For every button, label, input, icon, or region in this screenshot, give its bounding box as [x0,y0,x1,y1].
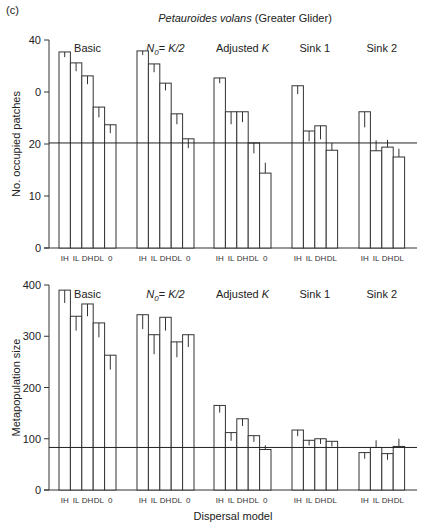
x-axis-title: Dispersal model [194,510,273,522]
y-tick-label: 40 [29,34,41,46]
bar [248,436,259,490]
category-label: DL [394,496,405,505]
category-label: IL [151,496,158,505]
bar [260,173,271,248]
category-label: IH [216,496,224,505]
bar [393,446,404,490]
group-title: N0= K/2 [146,42,184,57]
group-title: N0= K/2 [146,288,184,303]
bar [370,447,381,490]
category-label: 0 [108,496,113,505]
bar [93,107,104,248]
bar [148,64,159,248]
category-label: 0 [186,254,191,263]
category-label: IL [73,496,80,505]
category-label: DL [94,254,105,263]
group-title: Basic [74,288,101,300]
category-label: DL [249,496,260,505]
bar [183,139,194,248]
y-axis-title: No. occupied patches [10,91,22,197]
bar [303,131,314,248]
category-label: DH [82,496,94,505]
bar [148,335,159,490]
bar [393,157,404,248]
category-label: DL [94,496,105,505]
bar [382,147,393,248]
category-label: 0 [186,496,191,505]
category-label: IL [306,254,313,263]
bar-group: Sink 1IHILDHDL [292,288,338,505]
category-label: DL [172,254,183,263]
bar [237,112,248,248]
bar [59,290,70,490]
category-label: DH [382,496,394,505]
figure: (c) Petauroides volans (Greater Glider)0… [0,0,428,528]
bar-group: N0= K/2IHILDHDL0 [137,42,194,263]
group-title: Adjusted K [216,42,270,54]
y-tick-label: 200 [23,382,41,394]
bar [171,342,182,490]
y-tick-label: 0 [35,86,41,98]
bar-group: Sink 2IHILDHDL [359,42,405,263]
category-label: IH [139,254,147,263]
category-label: 0 [263,496,268,505]
y-tick-label: 0 [35,242,41,254]
category-label: DL [327,254,338,263]
category-label: DL [394,254,405,263]
category-label: IL [73,254,80,263]
bar [326,150,337,248]
category-label: IH [361,496,369,505]
category-label: DL [327,496,338,505]
y-tick-label: 300 [23,330,41,342]
y-tick-label: 400 [23,279,41,291]
chart-panel-1: 01020040No. occupied patchesBasicIHILDHD… [10,34,417,263]
bar [160,83,171,248]
category-label: IL [228,254,235,263]
bar [93,323,104,490]
category-label: DL [172,496,183,505]
bar [82,76,93,248]
bar-group: Adjusted KIHILDHDL0 [214,42,271,263]
bar [315,126,326,248]
y-tick-label: 20 [29,138,41,150]
bar [160,317,171,490]
bar [260,450,271,490]
bar [225,433,236,490]
bar [183,335,194,490]
y-tick-label: 10 [29,190,41,202]
category-label: IH [61,496,69,505]
category-label: DH [315,254,327,263]
bar [70,316,81,490]
bar-group: BasicIHILDHDL0 [59,42,116,263]
bar [370,151,381,248]
category-label: IL [151,254,158,263]
bar-group: BasicIHILDHDL0 [59,288,116,505]
category-label: IL [373,254,380,263]
bar [70,63,81,248]
bar [137,315,148,490]
category-label: IH [294,496,302,505]
bar [359,112,370,248]
bar [292,86,303,248]
category-label: IH [361,254,369,263]
category-label: DH [160,254,172,263]
y-tick-label: 0 [35,484,41,496]
category-label: IH [216,254,224,263]
figure-title: Petauroides volans (Greater Glider) [158,12,332,24]
category-label: 0 [108,254,113,263]
y-tick-label: 100 [23,433,41,445]
category-label: DH [315,496,327,505]
bar-group: Sink 2IHILDHDL [359,288,405,505]
group-title: Sink 1 [300,42,331,54]
y-axis-title: Metapopulation size [10,339,22,437]
category-label: IH [139,496,147,505]
category-label: IH [294,254,302,263]
group-title: Sink 2 [367,288,398,300]
group-title: Basic [74,42,101,54]
group-title: Sink 2 [367,42,398,54]
bar [225,112,236,248]
group-title: Adjusted K [216,288,270,300]
chart-canvas: Petauroides volans (Greater Glider)01020… [0,0,428,528]
category-label: DH [237,496,249,505]
category-label: DL [249,254,260,263]
